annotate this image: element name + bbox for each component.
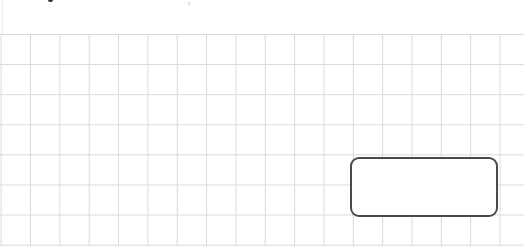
canvas-left-edge [2,0,3,34]
cut-off-text-fragment [48,0,53,2]
rounded-rectangle-shape[interactable] [350,157,498,217]
faint-mark [188,2,190,5]
grid-top-border [0,34,524,35]
canvas-header-area [0,0,524,34]
